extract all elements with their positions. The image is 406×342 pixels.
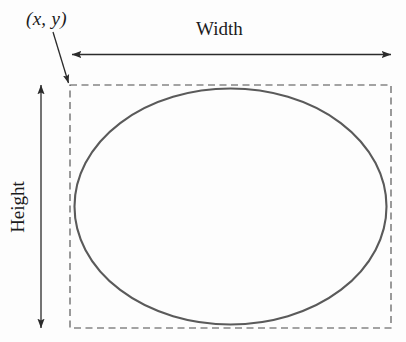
bounding-box-rect (70, 85, 391, 328)
ellipse-dimension-diagram: (x, y) Width Height (0, 0, 406, 342)
width-label: Width (196, 19, 243, 38)
height-label: Height (8, 181, 27, 233)
origin-point-label: (x, y) (26, 9, 67, 28)
ellipse-shape (75, 89, 387, 325)
diagram-canvas (0, 0, 406, 342)
point-callout-arrow (53, 32, 69, 83)
